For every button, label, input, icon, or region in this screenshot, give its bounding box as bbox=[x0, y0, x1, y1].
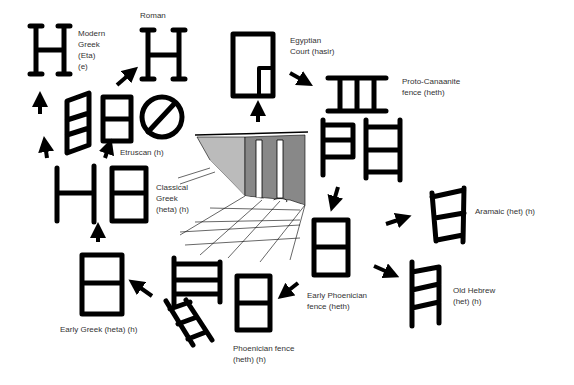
label-egyptian: Egyptian Court (hasir) bbox=[290, 35, 334, 57]
roman-glyph bbox=[142, 30, 185, 79]
arrow-to-old-hebrew bbox=[374, 266, 392, 274]
arrow-to-etruscan bbox=[105, 146, 109, 158]
early-phoenician-glyph bbox=[314, 220, 348, 275]
arrow-to-aramaic bbox=[386, 218, 404, 224]
label-phoenician: Phoenician fence (heth) (h) bbox=[233, 343, 294, 365]
egyptian-glyph bbox=[233, 34, 273, 96]
proto-canaanite-variants-glyph bbox=[323, 120, 400, 180]
arrow-to-early-phoenician bbox=[333, 187, 338, 204]
classical-greek-glyph bbox=[57, 166, 146, 222]
arrow-to-etruscan-left bbox=[45, 144, 47, 158]
label-etruscan: Etruscan (h) bbox=[120, 147, 164, 158]
label-classical-greek: Classical Greek (heta) (h) bbox=[156, 182, 189, 215]
old-hebrew-glyph bbox=[412, 262, 439, 326]
arrow-egypt-to-proto bbox=[290, 73, 306, 82]
etruscan-glyph bbox=[67, 93, 182, 153]
early-greek-glyph bbox=[82, 255, 122, 314]
label-aramaic: Aramaic (het) (h) bbox=[475, 206, 535, 217]
label-roman: Roman bbox=[140, 10, 166, 21]
label-old-hebrew: Old Hebrew (het) (h) bbox=[453, 285, 495, 307]
label-modern-greek: Modern Greek (Eta) (e) bbox=[78, 28, 105, 72]
label-proto-canaanite: Proto-Canaanite fence (heth) bbox=[402, 76, 460, 98]
modern-greek-glyph bbox=[30, 26, 70, 74]
arrow-to-early-greek bbox=[135, 284, 152, 296]
label-early-phoenician: Early Phoenician fence (heth) bbox=[307, 290, 367, 312]
arrow-to-roman bbox=[117, 72, 132, 85]
proto-canaanite-glyph bbox=[328, 78, 386, 111]
aramaic-glyph bbox=[432, 188, 464, 242]
arrow-to-phoenician bbox=[284, 283, 298, 294]
label-early-greek: Early Greek (heta) (h) bbox=[60, 324, 137, 335]
egyptian-court-illustration bbox=[178, 132, 308, 262]
diagram-stage: Modern Greek (Eta) (e) Roman Egyptian Co… bbox=[0, 0, 574, 385]
phoenician-glyph bbox=[166, 258, 270, 345]
